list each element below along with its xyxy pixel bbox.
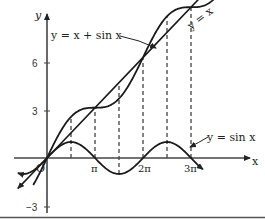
x-tick-label-3pi: 3π xyxy=(184,163,197,174)
origin-label: O xyxy=(36,162,45,175)
y-tick-label-neg3: −3 xyxy=(26,202,38,213)
y-tick-label-3: 3 xyxy=(32,106,38,117)
label-y-equals-sin-x: y = sin x xyxy=(206,131,256,144)
pointer-sin-label xyxy=(190,137,208,147)
y-axis-label: y xyxy=(34,9,42,22)
x-axis-label: x xyxy=(252,155,259,168)
x-tick-label-2pi: 2π xyxy=(138,163,151,174)
x-tick-label-pi: π xyxy=(91,163,98,174)
graph-figure: y x O 6 3 −3 π 2π 3π y = x + sin x y = x… xyxy=(0,0,265,219)
y-tick-label-6: 6 xyxy=(32,58,38,69)
label-y-equals-x-plus-sin-x: y = x + sin x xyxy=(50,29,123,42)
